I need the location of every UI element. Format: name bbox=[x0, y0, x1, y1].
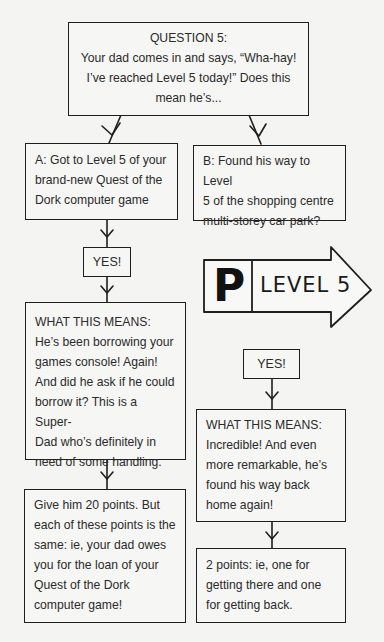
points-line: for getting back. bbox=[206, 595, 336, 615]
parking-p-icon: P bbox=[213, 264, 245, 308]
option-b-yes-box: YES! bbox=[243, 349, 300, 379]
means-title: WHAT THIS MEANS: bbox=[206, 415, 336, 435]
option-a-line: brand-new Quest of the bbox=[35, 170, 168, 190]
option-a-line: Dork computer game bbox=[35, 190, 168, 210]
option-a-line: A: Got to Level 5 of your bbox=[35, 150, 168, 170]
yes-label: YES! bbox=[257, 357, 286, 371]
question-line: Your dad comes in and says, “Wha-hay! bbox=[78, 48, 299, 68]
points-line: same: ie, your dad owes bbox=[34, 535, 176, 555]
means-line: borrow it? This is a Super- bbox=[35, 392, 176, 432]
question-title: QUESTION 5: bbox=[78, 28, 299, 48]
option-b-means-box: WHAT THIS MEANS: Incredible! And even mo… bbox=[196, 409, 346, 522]
points-line: Quest of the Dork bbox=[34, 575, 176, 595]
yes-label: YES! bbox=[93, 255, 122, 269]
means-line: Incredible! And even bbox=[206, 435, 336, 455]
option-b-line: B: Found his way to Level bbox=[203, 151, 336, 191]
points-line: 2 points: ie, one for bbox=[206, 555, 336, 575]
option-a-means-box: WHAT THIS MEANS: He’s been borrowing you… bbox=[25, 302, 186, 460]
question-line: I’ve reached Level 5 today!” Does this bbox=[78, 68, 299, 88]
option-b-line: 5 of the shopping centre bbox=[203, 191, 336, 211]
means-line: Dad who’s definitely in bbox=[35, 432, 176, 452]
points-line: Give him 20 points. But bbox=[34, 495, 176, 515]
means-line: home again! bbox=[206, 495, 336, 515]
points-line: each of these points is the bbox=[34, 515, 176, 535]
option-b-line: multi-storey car park? bbox=[203, 211, 336, 231]
option-a-box: A: Got to Level 5 of your brand-new Ques… bbox=[25, 143, 178, 220]
question-box: QUESTION 5: Your dad comes in and says, … bbox=[68, 22, 309, 116]
means-line: And did he ask if he could bbox=[35, 372, 176, 392]
means-line: He’s been borrowing your bbox=[35, 332, 176, 352]
points-line: you for the loan of your bbox=[34, 555, 176, 575]
means-line: more remarkable, he’s bbox=[206, 455, 336, 475]
points-line: getting there and one bbox=[206, 575, 336, 595]
points-line: computer game! bbox=[34, 595, 176, 615]
option-a-points-box: Give him 20 points. But each of these po… bbox=[24, 489, 186, 623]
parking-level-label: LEVEL 5 bbox=[260, 273, 351, 297]
option-b-box: B: Found his way to Level 5 of the shopp… bbox=[193, 145, 346, 221]
means-line: need of some handling. bbox=[35, 452, 176, 472]
means-line: games console! Again! bbox=[35, 352, 176, 372]
question-line: mean he’s... bbox=[78, 88, 299, 108]
option-b-points-box: 2 points: ie, one for getting there and … bbox=[196, 548, 346, 623]
means-title: WHAT THIS MEANS: bbox=[35, 312, 176, 332]
option-a-yes-box: YES! bbox=[83, 247, 131, 277]
means-line: found his way back bbox=[206, 475, 336, 495]
